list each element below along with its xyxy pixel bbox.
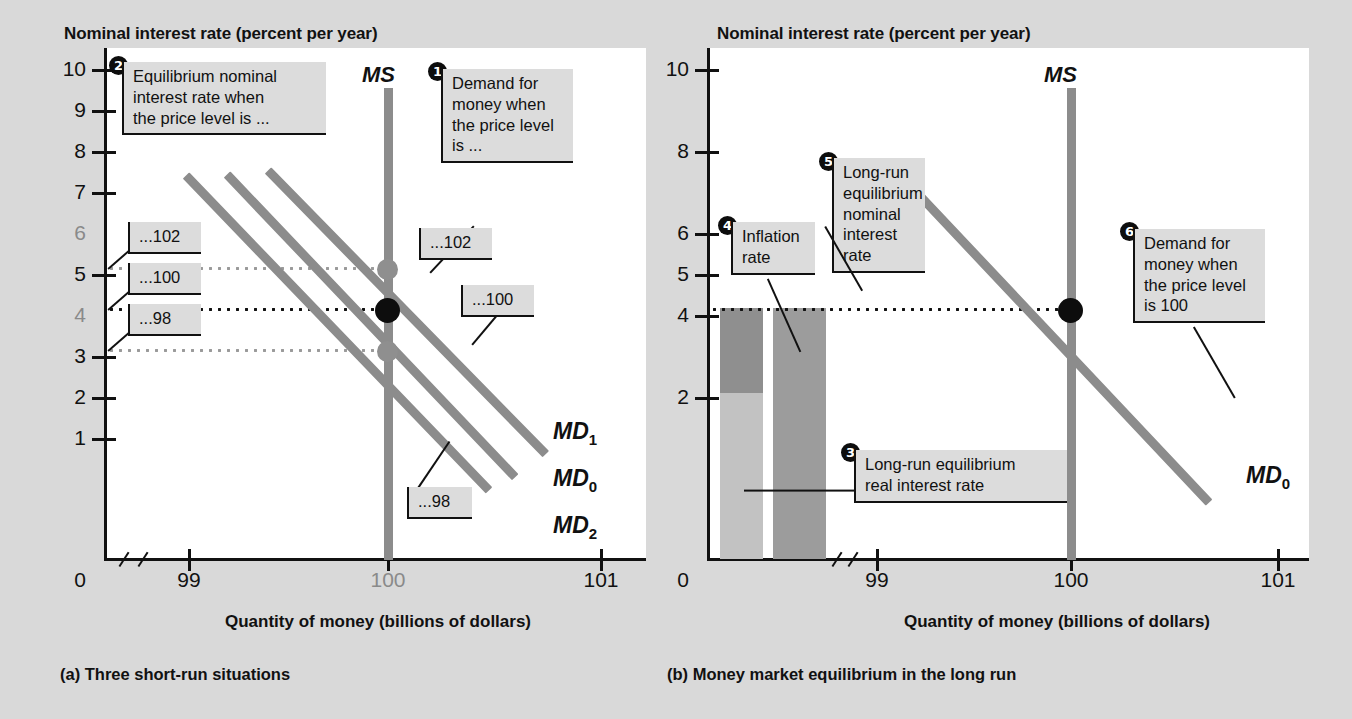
panel-a-ylabel-10: 10 [44,57,86,81]
panel-a-md1-base: MD [553,418,589,444]
panel-a-ytick-9 [92,110,116,113]
panel-b-bar-real-interest-rate [720,393,763,559]
panel-a-ylabel-3: 3 [44,344,86,368]
panel-a-curve-label-md1: MD1 [553,418,597,448]
panel-b-ylabel-10: 10 [647,57,689,81]
panel-a-label-left-102: ...102 [128,222,201,254]
panel-a-equilibrium-dot-102 [377,259,398,280]
panel-a-ytick-2 [92,397,116,400]
panel-b-ylabel-4: 4 [647,303,689,327]
panel-a-xlabel-101: 101 [562,568,640,592]
panel-a-md0-sub: 0 [589,478,597,495]
panel-b-ylabel-6: 6 [647,221,689,245]
panel-a-ylabel-7: 7 [44,180,86,204]
panel-b-equilibrium-dot [1058,298,1083,323]
panel-b-callout-4: Inflation rate [731,222,815,275]
panel-b-xlabel-100: 100 [1032,568,1110,592]
panel-b-ylabel-8: 8 [647,139,689,163]
panel-a-label-left-98: ...98 [128,304,201,336]
panel-a-ms-label: MS [362,62,395,88]
panel-a-ylabel-5: 5 [44,262,86,286]
panel-b-md0-base: MD [1246,462,1282,488]
panel-a-md0-base: MD [553,465,589,491]
panel-a-x-axis [104,558,646,561]
panel-b-ms-label: MS [1044,62,1077,88]
panel-b-ytick-8 [695,151,719,154]
panel-a-ytick-7 [92,192,116,195]
panel-a-ylabel-2: 2 [44,385,86,409]
panel-b-curve-ms [1067,88,1076,560]
panel-b-curve-label-md0: MD0 [1246,462,1290,492]
panel-a-y-axis-title: Nominal interest rate (percent per year) [64,24,377,44]
panel-a-callout-2: Equilibrium nominal interest rate when t… [122,62,326,135]
panel-a: Nominal interest rate (percent per year)… [0,0,676,719]
panel-a-ylabel-4: 4 [44,303,86,327]
panel-a-xlabel-99: 99 [150,568,228,592]
panel-b-ytick-2 [695,397,719,400]
panel-a-curve-label-md2: MD2 [553,512,597,542]
panel-b-ytick-10 [695,69,719,72]
panel-b-bar-nominal-interest-rate [773,308,826,559]
panel-a-y-axis [104,48,107,560]
panel-a-label-left-100: ...100 [128,263,201,295]
panel-a-ytick-3 [92,356,116,359]
panel-a-caption: (a) Three short-run situations [60,665,290,684]
panel-b-ylabel-2: 2 [647,385,689,409]
panel-b-dotline-5 [710,308,1065,311]
panel-a-dotline-4 [107,349,381,352]
panel-b-callout-3: Long-run equilibrium real interest rate [854,450,1067,503]
panel-a-ylabel-1: 1 [44,426,86,450]
panel-a-ytick-1 [92,438,116,441]
panel-b-leader-3 [744,490,854,492]
panel-a-md2-base: MD [553,512,589,538]
panel-a-ylabel-0: 0 [44,568,86,592]
panel-a-md2-sub: 2 [589,525,597,542]
figure-container: Nominal interest rate (percent per year)… [0,0,1352,719]
panel-b-xlabel-101: 101 [1239,568,1317,592]
panel-a-ylabel-9: 9 [44,98,86,122]
panel-b-ylabel-0: 0 [647,568,689,592]
panel-a-callout-1: Demand for money when the price level is… [441,69,573,163]
panel-a-ytick-5 [92,274,116,277]
panel-b-bar-inflation-rate [720,308,763,393]
panel-a-equilibrium-dot-98 [377,341,398,362]
panel-a-ylabel-6: 6 [44,221,86,245]
panel-b-caption: (b) Money market equilibrium in the long… [667,665,1016,684]
panel-b-y-axis-title: Nominal interest rate (percent per year) [717,24,1030,44]
panel-b-md0-sub: 0 [1282,475,1290,492]
panel-b-callout-6: Demand for money when the price level is… [1133,229,1265,323]
panel-b: Nominal interest rate (percent per year)… [676,0,1352,719]
panel-b-ytick-6 [695,233,719,236]
panel-b-ylabel-5: 5 [647,262,689,286]
panel-a-curve-label-md0: MD0 [553,465,597,495]
panel-b-ytick-5 [695,274,719,277]
panel-a-ylabel-8: 8 [44,139,86,163]
panel-a-curve-ms [384,88,393,560]
panel-b-callout-5: Long-run equilibrium nominal interest ra… [832,158,925,273]
panel-b-xlabel-99: 99 [838,568,916,592]
panel-a-label-right-98: ...98 [407,487,472,519]
panel-a-equilibrium-dot-100 [375,298,400,323]
panel-b-y-axis [707,48,710,560]
panel-a-x-axis-title: Quantity of money (billions of dollars) [225,612,531,632]
panel-b-ytick-4 [695,315,719,318]
panel-b-x-axis-title: Quantity of money (billions of dollars) [904,612,1210,632]
panel-a-md1-sub: 1 [589,431,597,448]
panel-a-label-right-100: ...100 [461,285,534,317]
panel-a-xlabel-100: 100 [349,568,427,592]
panel-a-ytick-8 [92,151,116,154]
panel-a-label-right-102: ...102 [419,228,492,260]
